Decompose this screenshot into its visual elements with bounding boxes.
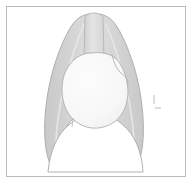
heart-silhouette xyxy=(62,53,128,128)
faint-mark-upper-icon xyxy=(153,95,155,104)
faint-mark-lower-icon xyxy=(155,107,161,109)
chest-diagram-figure: Chest radiograph schematic (PA view) xyxy=(0,0,193,191)
chest-diagram-canvas xyxy=(0,0,193,191)
